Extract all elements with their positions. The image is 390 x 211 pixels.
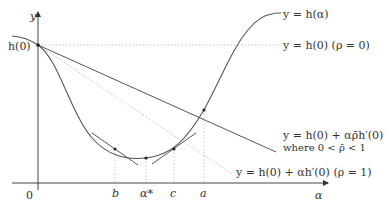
point-c (173, 148, 176, 151)
tick-label-c: c (170, 187, 176, 200)
point-h0 (36, 43, 40, 47)
h-alpha-leader (272, 13, 281, 14)
tangent-segments (92, 133, 196, 165)
rhobar-line (38, 45, 276, 152)
point-b (114, 148, 117, 151)
rho1-line-label: y = h(0) + αh′(0) (ρ = 1) (235, 166, 372, 179)
rho0-line-label: y = h(0) (ρ = 0) (282, 39, 370, 52)
h0-label: h(0) (8, 40, 31, 53)
rhobar-condition-label: where 0 < ρ̄ < 1 (283, 142, 366, 153)
line-search-diagram: y h(0) 0 α b α* c a y = h(α) y = h(0) (ρ… (0, 0, 390, 211)
rhobar-line-label: y = h(0) + αρ̄h′(0) (282, 129, 383, 142)
point-alpha-star (144, 156, 147, 159)
tick-label-b: b (112, 187, 119, 200)
tick-label-a: a (200, 187, 207, 200)
tick-label-alpha-star: α* (140, 187, 153, 200)
y-axis-label: y (29, 10, 37, 23)
h-alpha-curve-label: y = h(α) (282, 8, 329, 21)
x-axis-label: α (315, 189, 323, 202)
h-alpha-curve (12, 14, 272, 158)
point-a (202, 108, 205, 111)
origin-label: 0 (26, 189, 33, 202)
